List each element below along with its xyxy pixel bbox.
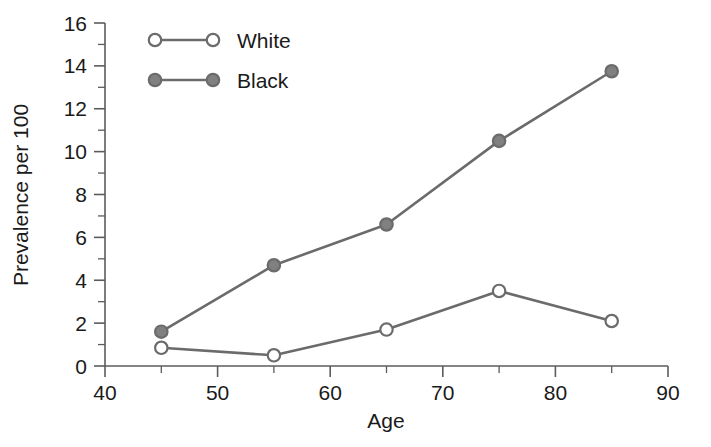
x-axis-title: Age [367, 409, 404, 432]
data-point [380, 323, 392, 335]
data-point [493, 285, 505, 297]
x-tick-label: 60 [319, 381, 342, 404]
data-point [268, 349, 280, 361]
y-tick-label: 8 [75, 183, 87, 206]
line-chart: 0246810121416 405060708090 WhiteBlack Ag… [0, 0, 711, 447]
y-tick-label: 0 [75, 355, 87, 378]
x-tick-label: 50 [206, 381, 229, 404]
y-tick-label: 16 [64, 12, 87, 35]
y-tick-label: 2 [75, 312, 87, 335]
data-point [155, 342, 167, 354]
y-tick-label: 14 [64, 54, 88, 77]
y-tick-label: 6 [75, 226, 87, 249]
legend-marker-icon [149, 74, 161, 86]
chart-background [0, 0, 711, 447]
chart-container: 0246810121416 405060708090 WhiteBlack Ag… [0, 0, 711, 447]
y-tick-label: 4 [75, 269, 87, 292]
data-point [606, 315, 618, 327]
data-point [606, 65, 618, 77]
legend-label: Black [237, 69, 289, 92]
data-point [268, 259, 280, 271]
data-point [155, 326, 167, 338]
y-tick-label: 10 [64, 140, 87, 163]
legend-marker-icon [207, 74, 219, 86]
legend-marker-icon [149, 34, 161, 46]
data-point [380, 218, 392, 230]
data-point [493, 135, 505, 147]
y-tick-label: 12 [64, 97, 87, 120]
x-tick-label: 80 [544, 381, 567, 404]
legend-marker-icon [207, 34, 219, 46]
legend-label: White [237, 29, 291, 52]
x-tick-label: 90 [656, 381, 679, 404]
y-axis-title: Prevalence per 100 [9, 104, 32, 286]
x-tick-label: 70 [431, 381, 454, 404]
x-tick-label: 40 [93, 381, 116, 404]
